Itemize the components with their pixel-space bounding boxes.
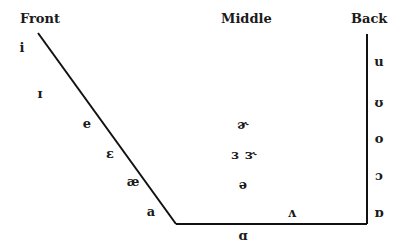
heading-back: Back — [351, 12, 387, 25]
vowel-symbol: ɜ — [231, 148, 238, 161]
vowel-symbol: ʊ — [375, 96, 384, 109]
vowel-symbol: ɑ — [238, 229, 247, 242]
vowel-symbol: ɛ — [106, 147, 114, 160]
front-diagonal-line — [38, 33, 176, 224]
heading-front: Front — [20, 12, 60, 25]
vowel-symbol: ʌ — [288, 206, 296, 219]
heading-middle: Middle — [221, 12, 272, 25]
vowel-symbol: e — [83, 117, 91, 130]
vowel-symbol: ɪ — [38, 87, 43, 100]
vowel-symbol: ɝ — [245, 148, 257, 161]
vowel-symbol: æ — [127, 175, 140, 188]
vowel-symbol: ɚ — [237, 118, 249, 131]
vowel-symbol: u — [374, 55, 383, 68]
vowel-chart-outline — [0, 0, 403, 249]
vowel-symbol: ə — [239, 178, 247, 191]
vowel-symbol: a — [147, 205, 155, 218]
vowel-symbol: ɒ — [374, 206, 383, 219]
vowel-symbol: ɔ — [375, 169, 383, 182]
vowel-symbol: i — [20, 41, 25, 54]
vowel-symbol: o — [375, 132, 384, 145]
